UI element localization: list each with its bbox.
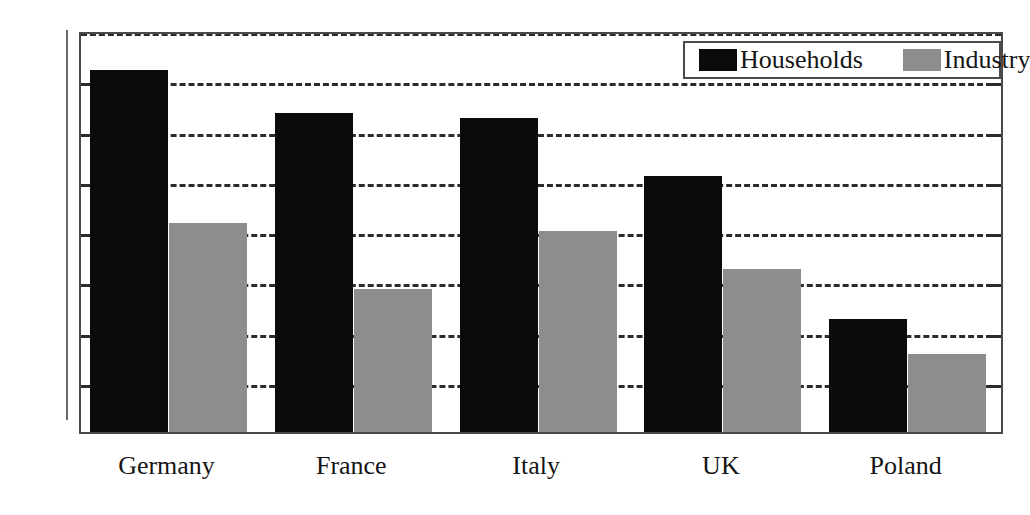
tick-right-20 [990,385,1001,388]
bar-poland-industry [908,354,986,432]
bar-poland-households [829,319,907,432]
gridline-160 [81,34,1001,36]
gridline-100 [81,184,1001,187]
tick-right-80 [990,234,1001,237]
legend-label-households: Households [740,47,863,73]
tick-right-40 [990,335,1001,338]
gridline-140 [81,83,1001,86]
bar-france-industry [354,289,432,432]
legend-swatch-industry-icon [903,49,941,71]
bar-france-households [275,113,353,432]
gridline-120 [81,134,1001,137]
tick-right-60 [990,284,1001,287]
bar-italy-households [460,118,538,432]
tick-right-140 [990,83,1001,86]
legend: Households Industry [683,41,1001,79]
legend-label-industry: Industry [944,47,1030,73]
x-category-label-poland: Poland [796,452,1016,480]
tick-right-100 [990,184,1001,187]
bar-italy-industry [539,231,617,432]
y-axis-spine [66,30,68,420]
legend-swatch-households-icon [699,49,737,71]
tick-right-120 [990,134,1001,137]
bar-uk-households [644,176,722,432]
legend-entry-industry: Industry [903,47,1030,73]
plot-area [79,32,1003,434]
bar-germany-industry [169,223,247,432]
bar-uk-industry [723,269,801,432]
bar-germany-households [90,70,168,432]
legend-entry-households: Households [699,47,863,73]
